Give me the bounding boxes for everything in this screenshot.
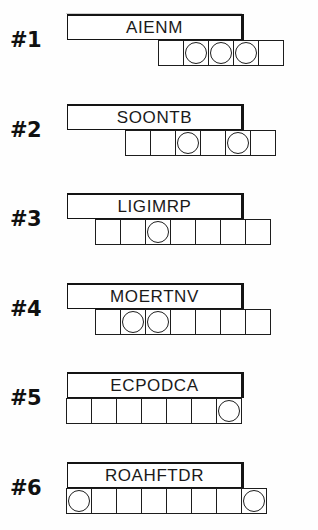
answer-cell[interactable] bbox=[195, 219, 221, 245]
answer-cell-circled[interactable] bbox=[175, 130, 201, 156]
puzzle-index-label: #1 bbox=[10, 30, 41, 51]
answer-cell-circled[interactable] bbox=[145, 309, 171, 335]
scrambled-letters: AIENM bbox=[126, 19, 183, 37]
scrambled-word-box: AIENM bbox=[67, 14, 244, 40]
answer-grid bbox=[95, 219, 270, 245]
answer-cell[interactable] bbox=[116, 398, 142, 424]
answer-cell[interactable] bbox=[200, 130, 226, 156]
answer-cell[interactable] bbox=[220, 219, 246, 245]
answer-cell[interactable] bbox=[66, 398, 92, 424]
scrambled-word-box: SOONTB bbox=[67, 104, 244, 130]
answer-cell[interactable] bbox=[158, 40, 184, 66]
scrambled-word-box: ECPODCA bbox=[67, 372, 244, 398]
scrambled-letters: LIGIMRP bbox=[117, 198, 191, 216]
answer-cell[interactable] bbox=[220, 309, 246, 335]
answer-cell-circled[interactable] bbox=[66, 488, 92, 514]
answer-cell[interactable] bbox=[191, 488, 217, 514]
scrambled-letters: SOONTB bbox=[117, 109, 192, 127]
puzzle-index-label: #6 bbox=[10, 478, 41, 499]
answer-cell[interactable] bbox=[216, 488, 242, 514]
answer-cell[interactable] bbox=[116, 488, 142, 514]
answer-cell-circled[interactable] bbox=[120, 309, 146, 335]
answer-cell[interactable] bbox=[170, 309, 196, 335]
scrambled-word-box: LIGIMRP bbox=[67, 193, 244, 219]
answer-grid bbox=[95, 309, 270, 335]
puzzle-sheet: #1AIENM#2SOONTB#3LIGIMRP#4MOERTNV#5ECPOD… bbox=[0, 0, 318, 530]
puzzle-index-label: #5 bbox=[10, 388, 41, 409]
scrambled-word-box: MOERTNV bbox=[67, 283, 244, 309]
answer-cell[interactable] bbox=[95, 219, 121, 245]
answer-cell-circled[interactable] bbox=[233, 40, 259, 66]
answer-cell[interactable] bbox=[195, 309, 221, 335]
answer-cell[interactable] bbox=[120, 219, 146, 245]
answer-cell[interactable] bbox=[170, 219, 196, 245]
answer-cell-circled[interactable] bbox=[225, 130, 251, 156]
answer-cell[interactable] bbox=[191, 398, 217, 424]
puzzle-index-label: #3 bbox=[10, 209, 41, 230]
answer-grid bbox=[66, 488, 266, 514]
puzzle-index-label: #4 bbox=[10, 299, 41, 320]
scrambled-letters: MOERTNV bbox=[110, 288, 199, 306]
answer-cell[interactable] bbox=[258, 40, 284, 66]
answer-cell[interactable] bbox=[95, 309, 121, 335]
answer-cell[interactable] bbox=[91, 398, 117, 424]
answer-cell[interactable] bbox=[250, 130, 276, 156]
answer-grid bbox=[66, 398, 241, 424]
scrambled-letters: ROAHFTDR bbox=[105, 467, 204, 485]
answer-cell-circled[interactable] bbox=[216, 398, 242, 424]
answer-grid bbox=[125, 130, 275, 156]
answer-cell[interactable] bbox=[91, 488, 117, 514]
answer-cell[interactable] bbox=[166, 488, 192, 514]
answer-cell[interactable] bbox=[141, 398, 167, 424]
answer-cell-circled[interactable] bbox=[208, 40, 234, 66]
answer-cell[interactable] bbox=[245, 219, 271, 245]
puzzle-index-label: #2 bbox=[10, 120, 41, 141]
answer-cell-circled[interactable] bbox=[145, 219, 171, 245]
answer-grid bbox=[158, 40, 283, 66]
answer-cell[interactable] bbox=[150, 130, 176, 156]
answer-cell[interactable] bbox=[166, 398, 192, 424]
scrambled-word-box: ROAHFTDR bbox=[67, 462, 244, 488]
answer-cell[interactable] bbox=[245, 309, 271, 335]
answer-cell[interactable] bbox=[125, 130, 151, 156]
answer-cell[interactable] bbox=[141, 488, 167, 514]
answer-cell-circled[interactable] bbox=[241, 488, 267, 514]
scrambled-letters: ECPODCA bbox=[110, 377, 198, 395]
answer-cell-circled[interactable] bbox=[183, 40, 209, 66]
